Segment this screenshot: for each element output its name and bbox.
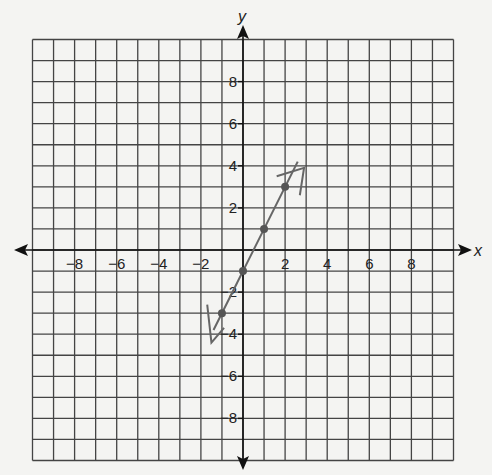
y-tick-label: 6 — [229, 115, 237, 132]
y-tick-label: −2 — [220, 283, 237, 300]
y-tick-label: 2 — [229, 199, 237, 216]
x-tick-label: 4 — [323, 255, 331, 272]
coordinate-plane: −8−6−4−224688642−2−4−6−8 x y — [0, 0, 492, 475]
x-tick-label: −6 — [108, 255, 125, 272]
y-tick-label: 8 — [229, 73, 237, 90]
x-axis-label: x — [473, 242, 483, 259]
x-tick-label: −8 — [66, 255, 83, 272]
y-axis-label: y — [237, 8, 247, 25]
y-tick-label: 4 — [229, 157, 237, 174]
data-point — [281, 183, 289, 191]
data-point — [239, 267, 247, 275]
x-tick-label: −2 — [192, 255, 209, 272]
data-point — [218, 309, 226, 317]
data-point — [260, 225, 268, 233]
y-tick-label: −8 — [220, 409, 237, 426]
axes — [14, 25, 472, 470]
x-tick-label: −4 — [150, 255, 167, 272]
hand-drawn-arrow-top-icon — [277, 168, 304, 195]
x-tick-label: 8 — [407, 255, 415, 272]
y-tick-label: −4 — [220, 325, 237, 342]
x-tick-label: 6 — [365, 255, 373, 272]
x-tick-label: 2 — [281, 255, 289, 272]
y-tick-label: −6 — [220, 367, 237, 384]
